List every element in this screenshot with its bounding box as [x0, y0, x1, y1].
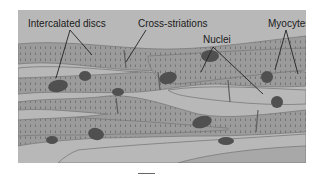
nucleus [112, 88, 124, 96]
cardiac-muscle-diagram: Intercalated discs Cross-striations Nucl… [18, 10, 306, 163]
scale-bar [138, 173, 155, 174]
label-nuclei: Nuclei [203, 34, 231, 45]
nucleus [79, 71, 91, 81]
label-cross-striations: Cross-striations [138, 18, 207, 29]
label-myocytes: Myocytes [268, 18, 306, 29]
nucleus [201, 50, 219, 62]
nucleus [261, 71, 273, 83]
nucleus [271, 96, 283, 108]
label-intercalated-discs: Intercalated discs [28, 18, 106, 29]
nucleus [218, 137, 234, 145]
nucleus [46, 136, 58, 144]
